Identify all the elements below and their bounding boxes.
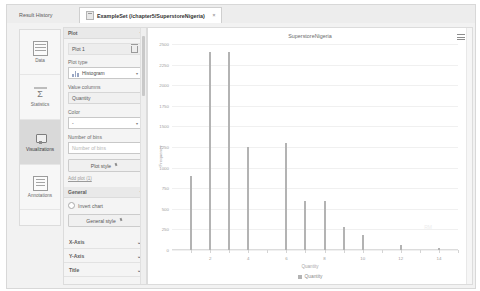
tab-result-history[interactable]: Result History [13,7,59,22]
chevron-down-icon[interactable]: ▾ [136,121,138,126]
x-axis-tick-mark [305,250,306,253]
add-plot-link[interactable]: Add plot (1) [68,176,142,181]
brush-icon [114,163,119,168]
invert-chart-row[interactable]: Invert chart [68,202,142,209]
x-axis-tick-mark [420,250,421,253]
histogram-bar[interactable] [324,201,326,250]
histogram-bar[interactable] [438,248,440,250]
trash-icon[interactable] [131,46,138,53]
color-select[interactable]: - ▾ [68,117,142,129]
chart-panel: SuperstoreNigeria Frequency 025050075010… [147,27,473,285]
x-axis-tick-label: 8 [323,256,325,261]
x-axis-tick-mark [286,250,287,253]
histogram-bar[interactable] [228,52,230,250]
grid-line [172,188,458,189]
grid-line [172,250,458,251]
checkbox[interactable] [68,202,75,209]
tab-bar: Result History ExampleSet (/chapter5/Sup… [7,5,475,24]
sidebar-item-label: Data [35,58,45,63]
plot-style-button[interactable]: Plot style [68,159,142,172]
grid-line [172,126,458,127]
x-axis-tick-mark [401,250,402,253]
grid-line [172,147,458,148]
histogram-bar[interactable] [362,235,364,250]
plot-options-panel: Plot ⌃ Plot 1 Plot type Histogram ▾ Valu… [63,27,147,285]
watermark: RM [424,224,432,230]
table-icon [33,41,48,56]
section-title: Y-Axis [69,253,84,259]
y-axis-tick-label: 1750 [159,103,169,108]
histogram-bar[interactable] [247,147,249,250]
histogram-icon [72,70,79,77]
x-axis-section-header[interactable]: X-Axis ⌄ [64,235,146,249]
histogram-bar[interactable] [343,227,345,250]
y-axis-tick-label: 750 [162,186,169,191]
legend-swatch [298,275,302,279]
grid-line [172,65,458,66]
scrollbar-thumb[interactable] [142,36,145,96]
histogram-bar[interactable] [304,201,306,250]
title-section-header[interactable]: Title ⌄ [64,263,146,277]
close-icon[interactable]: × [211,12,217,18]
x-axis-tick-mark [210,250,211,253]
invert-chart-label: Invert chart [78,203,103,209]
color-value: - [72,120,74,126]
chart-scrollbar[interactable] [466,28,472,284]
y-axis-tick-label: 500 [162,206,169,211]
general-section-header[interactable]: General ⌃ [64,187,146,198]
y-axis-tick-label: 1000 [159,165,169,170]
value-columns-value: Quantity [72,95,91,101]
plot-area: 0250500750100012501500175020002250250024… [172,44,458,250]
view-mode-rail: Data Σ Statistics Visualizations Annotat… [19,29,61,226]
sidebar-item-label: Annotations [28,193,52,198]
x-axis-tick-mark [382,250,383,253]
x-axis-tick-mark [248,250,249,253]
plot-section-header[interactable]: Plot ⌃ [64,28,146,39]
dataset-icon [86,11,94,20]
y-axis-tick-label: 0 [167,248,169,253]
tab-exampleset[interactable]: ExampleSet (/chapter5/SuperstoreNigeria)… [79,7,222,24]
histogram-bar[interactable] [190,176,192,250]
plot-name: Plot 1 [72,46,85,52]
x-axis-tick-label: 6 [285,256,287,261]
x-axis-tick-mark [325,250,326,253]
hamburger-menu-icon[interactable] [457,34,465,40]
sidebar-item-visualizations[interactable]: Visualizations [20,120,60,165]
results-window: Result History ExampleSet (/chapter5/Sup… [6,4,476,289]
tab-label: ExampleSet (/chapter5/SuperstoreNigeria) [97,13,205,19]
options-scrollbar[interactable] [140,28,146,284]
histogram-bar[interactable] [285,143,287,250]
bins-label: Number of bins [68,134,142,140]
y-axis-section-header[interactable]: Y-Axis ⌄ [64,249,146,263]
sidebar-item-annotations[interactable]: Annotations [20,165,60,210]
x-axis-tick-mark [267,250,268,253]
chart-legend: Quantity [148,274,472,279]
x-axis-tick-label: 10 [360,256,365,261]
x-axis-tick-label: 12 [398,256,403,261]
x-axis-tick-mark [439,250,440,253]
x-axis-tick-mark [191,250,192,253]
results-body: Data Σ Statistics Visualizations Annotat… [7,23,475,288]
sidebar-item-label: Visualizations [26,147,54,152]
sidebar-item-data[interactable]: Data [20,30,60,75]
grid-line [172,168,458,169]
value-columns-label: Value columns [68,84,142,90]
grid-line [172,85,458,86]
y-axis-tick-label: 250 [162,227,169,232]
chart-icon [34,132,47,145]
bins-placeholder: Number of bins [72,145,106,151]
histogram-bar[interactable] [209,52,211,250]
bins-input[interactable]: Number of bins [68,142,142,154]
general-style-button[interactable]: General style [68,214,142,227]
plot-item-row[interactable]: Plot 1 [68,43,142,55]
section-title: X-Axis [69,239,85,245]
value-columns-field[interactable]: Quantity [68,92,142,104]
chart-title: SuperstoreNigeria [148,33,472,39]
chevron-down-icon[interactable]: ▾ [136,71,138,76]
section-title: General [68,189,87,195]
color-label: Color [68,109,142,115]
sidebar-item-statistics[interactable]: Σ Statistics [20,75,60,120]
x-axis-tick-label: 14 [436,256,441,261]
histogram-bar[interactable] [400,245,402,250]
plot-type-select[interactable]: Histogram ▾ [68,67,142,79]
